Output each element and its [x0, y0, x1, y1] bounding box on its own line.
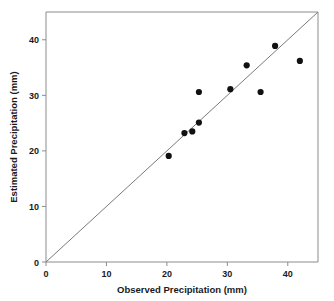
x-tick-label: 30	[222, 269, 232, 279]
x-tick-label: 20	[162, 269, 172, 279]
x-tick-label: 0	[43, 269, 48, 279]
y-tick-label: 10	[29, 202, 39, 212]
plot-canvas: 010203040010203040Observed Precipitation…	[0, 0, 334, 301]
data-point[interactable]	[189, 128, 195, 134]
data-point[interactable]	[227, 86, 233, 92]
x-tick-label: 10	[101, 269, 111, 279]
x-axis-title: Observed Precipitation (mm)	[117, 284, 247, 295]
y-tick-label: 0	[34, 258, 39, 268]
scatter-plot-figure: 010203040010203040Observed Precipitation…	[0, 0, 334, 301]
data-point[interactable]	[181, 130, 187, 136]
y-axis-title: Estimated Precipitation (mm)	[8, 71, 19, 202]
data-point[interactable]	[257, 89, 263, 95]
y-tick-label: 40	[29, 35, 39, 45]
data-point[interactable]	[297, 58, 303, 64]
y-tick-label: 30	[29, 91, 39, 101]
data-point[interactable]	[244, 62, 250, 68]
data-point[interactable]	[166, 153, 172, 159]
x-tick-label: 40	[283, 269, 293, 279]
one-to-one-reference-line	[46, 12, 318, 262]
data-point[interactable]	[196, 119, 202, 125]
data-point[interactable]	[196, 89, 202, 95]
data-series-0	[166, 43, 303, 159]
data-point[interactable]	[272, 43, 278, 49]
y-tick-label: 20	[29, 146, 39, 156]
